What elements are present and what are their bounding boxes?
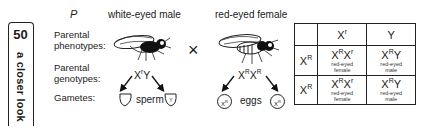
- allele-sup: R: [307, 54, 312, 61]
- male-label: white-eyed male: [108, 9, 181, 20]
- egg-gamete-icon: XR: [270, 94, 285, 109]
- sex-text: male: [367, 96, 415, 102]
- generation-label: P: [70, 9, 77, 20]
- col-header: Y: [367, 24, 416, 46]
- allele: X: [381, 49, 388, 61]
- row-header: XR: [295, 46, 318, 76]
- arrow-icon: [224, 76, 234, 89]
- offspring-cell: XRXr red-eyed female: [318, 75, 367, 105]
- female-fly-icon: [216, 28, 280, 66]
- label-line: Parental: [54, 30, 106, 41]
- sperm-gamete-icon: [117, 92, 133, 108]
- svg-text:Y: Y: [169, 97, 173, 103]
- label-line: phenotypes:: [54, 41, 106, 52]
- allele: X: [344, 78, 351, 90]
- allele-sup: r: [351, 77, 353, 84]
- gametes-label: Gametes:: [54, 93, 95, 104]
- sex-text: female: [318, 96, 366, 102]
- allele: X: [381, 78, 388, 90]
- phenotypes-label: Parental phenotypes:: [54, 30, 106, 51]
- allele: X: [337, 29, 344, 41]
- section-title: a closer look: [15, 37, 27, 128]
- row-header: XR: [295, 75, 318, 105]
- arrow-icon: [152, 76, 162, 89]
- sidebar-tab: 50 a closer look: [8, 22, 34, 126]
- label-line: Parental: [54, 63, 100, 74]
- punnett-square: Xr Y XR XRXr red-eyed female XRY red-eye…: [294, 23, 416, 105]
- label-line: genotypes:: [54, 74, 100, 85]
- allele: Y: [394, 49, 401, 61]
- allele-sup: r: [345, 28, 347, 35]
- allele: X: [344, 49, 351, 61]
- eggs-label: eggs: [240, 95, 262, 106]
- sex-text: male: [367, 67, 415, 73]
- allele: Y: [388, 29, 395, 41]
- egg-gamete-icon: XR: [217, 94, 232, 109]
- offspring-cell: XRXr red-eyed female: [318, 46, 367, 76]
- col-header: Xr: [318, 24, 367, 46]
- sex-text: female: [318, 67, 366, 73]
- arrow-icon: [122, 76, 132, 89]
- gamete-arrows: [118, 74, 298, 94]
- offspring-cell: XRY red-eyed male: [367, 75, 416, 105]
- arrow-icon: [266, 76, 276, 89]
- allele-sup: R: [307, 83, 312, 90]
- male-fly-icon: [112, 28, 174, 64]
- offspring-cell: XRY red-eyed male: [367, 46, 416, 76]
- female-label: red-eyed female: [215, 9, 287, 20]
- allele: Y: [394, 78, 401, 90]
- cross-symbol: ×: [188, 40, 199, 61]
- genotypes-label: Parental genotypes:: [54, 63, 100, 84]
- corner-cell: [295, 24, 318, 46]
- allele-sup: r: [351, 48, 353, 55]
- sperm-gamete-icon: Y: [163, 92, 179, 108]
- sperm-label: sperm: [136, 94, 164, 105]
